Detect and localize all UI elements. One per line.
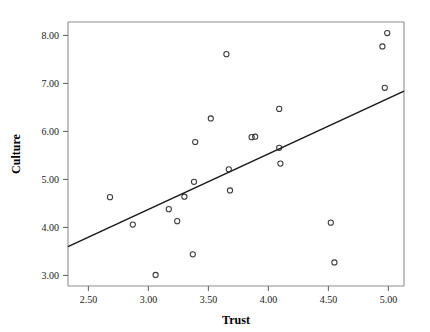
y-axis-title: Culture bbox=[9, 133, 23, 173]
data-point-marker bbox=[278, 161, 283, 166]
plot-canvas: 2.503.003.504.004.505.00 3.004.005.006.0… bbox=[0, 0, 430, 332]
data-point-marker bbox=[208, 116, 213, 121]
x-axis-title: Trust bbox=[222, 313, 250, 327]
data-point-marker bbox=[328, 220, 333, 225]
y-tick-label: 7.00 bbox=[42, 78, 60, 89]
scatter-plot-figure: 2.503.003.504.004.505.00 3.004.005.006.0… bbox=[0, 0, 430, 332]
data-point-marker bbox=[227, 188, 232, 193]
x-tick-label: 4.00 bbox=[260, 294, 278, 305]
data-point-marker bbox=[385, 30, 390, 35]
data-point-marker bbox=[166, 207, 171, 212]
data-points-layer bbox=[107, 30, 389, 277]
y-tick-label: 3.00 bbox=[42, 270, 60, 281]
y-tick-label: 4.00 bbox=[42, 222, 60, 233]
data-point-marker bbox=[107, 195, 112, 200]
data-point-marker bbox=[190, 252, 195, 257]
x-tick-label: 3.50 bbox=[200, 294, 218, 305]
data-point-marker bbox=[380, 44, 385, 49]
data-point-marker bbox=[332, 260, 337, 265]
x-tick-label: 3.00 bbox=[140, 294, 158, 305]
x-tick-label: 2.50 bbox=[80, 294, 98, 305]
y-tick-label: 5.00 bbox=[42, 174, 60, 185]
data-point-marker bbox=[253, 134, 258, 139]
x-tick-label: 5.00 bbox=[380, 294, 398, 305]
y-tick-label: 6.00 bbox=[42, 126, 60, 137]
data-point-marker bbox=[191, 179, 196, 184]
data-point-marker bbox=[182, 194, 187, 199]
data-point-marker bbox=[382, 85, 387, 90]
data-point-marker bbox=[175, 219, 180, 224]
x-axis-ticks: 2.503.003.504.004.505.00 bbox=[80, 286, 398, 305]
data-point-marker bbox=[153, 272, 158, 277]
y-tick-label: 8.00 bbox=[42, 30, 60, 41]
data-point-marker bbox=[130, 222, 135, 227]
y-axis-ticks: 3.004.005.006.007.008.00 bbox=[42, 30, 69, 281]
x-tick-label: 4.50 bbox=[320, 294, 338, 305]
data-point-marker bbox=[224, 52, 229, 57]
data-point-marker bbox=[193, 139, 198, 144]
plot-frame bbox=[68, 22, 404, 286]
data-point-marker bbox=[277, 106, 282, 111]
regression-line bbox=[68, 91, 404, 247]
